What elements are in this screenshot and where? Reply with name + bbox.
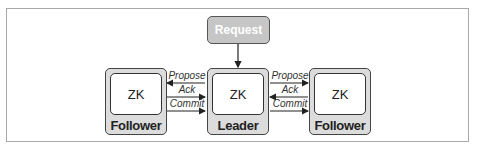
role-label: Follower — [106, 118, 166, 133]
role-label: Follower — [310, 118, 370, 133]
zk-label: ZK — [128, 87, 145, 102]
zk-label: ZK — [230, 87, 247, 102]
right-commit-label: Commit — [268, 98, 312, 109]
request-label: Request — [215, 23, 262, 37]
left-propose-label: Propose — [165, 70, 209, 81]
zk-inner-box: ZK — [212, 73, 264, 115]
follower-left-node: ZK Follower — [105, 68, 167, 135]
left-ack-label: Ack — [165, 84, 209, 95]
zk-inner-box: ZK — [110, 73, 162, 115]
right-propose-label: Propose — [268, 70, 312, 81]
right-ack-label: Ack — [268, 84, 312, 95]
leader-node: ZK Leader — [207, 68, 269, 135]
zk-inner-box: ZK — [314, 73, 366, 115]
left-commit-label: Commit — [165, 98, 209, 109]
request-box: Request — [207, 16, 270, 44]
zk-label: ZK — [332, 87, 349, 102]
follower-right-node: ZK Follower — [309, 68, 371, 135]
role-label: Leader — [208, 118, 268, 133]
